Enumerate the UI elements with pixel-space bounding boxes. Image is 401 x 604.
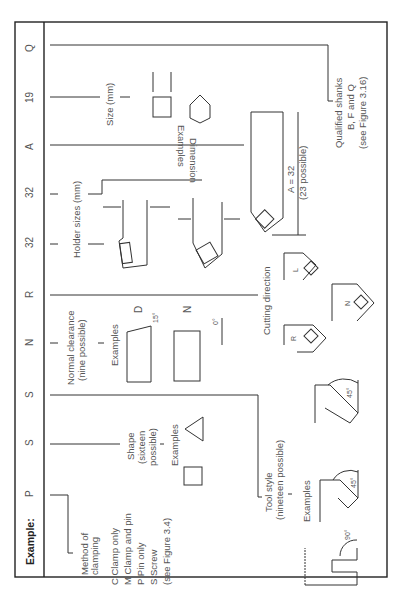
tool-angle-45a: 45°: [350, 477, 357, 488]
tool-90-icon: [305, 548, 357, 585]
shape-section: Shape (sixteen possible) Examples: [125, 417, 203, 485]
cutting-direction-section: Cutting direction R N L: [261, 253, 374, 352]
clamping-option-c: C Clamp only: [109, 528, 120, 585]
clamping-section: Method of clamping C Clamp only M Clamp …: [79, 513, 172, 585]
clamping-option-p: P Pin only: [135, 542, 146, 585]
clearance-title-1: Normal clearance: [65, 311, 76, 385]
clearance-examples-label: Examples: [109, 324, 120, 366]
qualified-section: Qualified shanks B, F and Q (see Figure …: [333, 77, 368, 149]
clamping-option-m: M Clamp and pin: [122, 513, 133, 585]
holder-b-icon: [193, 198, 222, 268]
tool-style-title-2: (nineteen possible): [274, 440, 285, 520]
clearance-d-label: D: [133, 306, 144, 313]
example-label: Example:: [24, 518, 36, 565]
clamping-reference: (see Figure 3.4): [161, 518, 172, 585]
tool-length-icon: [251, 112, 283, 232]
clearance-n-icon: [174, 331, 200, 381]
dimension-section: Size (mm) Examples Dimension: [104, 72, 210, 183]
cutting-l-label: L: [292, 268, 299, 272]
shape-title-3: possible): [147, 428, 158, 466]
clearance-d-icon: [127, 326, 151, 382]
code-size: 19: [24, 91, 35, 103]
clamping-option-s: S Screw: [148, 549, 159, 585]
code-tool-style: S: [24, 391, 35, 398]
tool-style-examples-label: Examples: [301, 480, 312, 522]
size-label: Size (mm): [104, 83, 115, 126]
qualified-line-3: (see Figure 3.16): [357, 77, 368, 149]
code-clearance: N: [24, 339, 35, 346]
clearance-section: Normal clearance (nine possible) Example…: [65, 306, 222, 385]
code-direction: R: [24, 291, 35, 298]
hexagon-dimension-icon: [190, 95, 210, 123]
dimension-title-2: Examples: [176, 125, 187, 167]
holder-title: Holder sizes (mm): [71, 181, 82, 258]
outer-frame: [15, 22, 387, 577]
qualified-line-2: B, F and Q: [345, 84, 356, 130]
clearance-title-2: (nine possible): [76, 319, 87, 381]
holder-a-icon: [119, 200, 147, 268]
angle-arc-90: [340, 540, 357, 556]
clearance-d-angle: 15°: [152, 312, 159, 323]
tool-style-title-1: Tool style: [263, 472, 274, 512]
square-insert-icon: [184, 467, 202, 485]
clearance-n-angle: 0°: [212, 318, 219, 325]
clamping-title-2: clamping: [89, 537, 100, 575]
leader-lines: [50, 45, 333, 553]
cutting-n-label: N: [344, 301, 351, 306]
shape-title-1: Shape: [125, 433, 136, 460]
square-dimension-icon: [153, 97, 171, 117]
code-shape: S: [24, 439, 35, 446]
cutting-r-label: R: [290, 336, 297, 341]
clearance-n-label: N: [182, 306, 193, 313]
cutting-l-icon: [284, 253, 316, 280]
shape-examples-label: Examples: [169, 424, 180, 466]
triangle-insert-icon: [185, 417, 203, 441]
tool-angle-90: 90°: [344, 529, 351, 540]
cutting-direction-title: Cutting direction: [261, 266, 272, 335]
dimension-title-1: Dimension: [188, 138, 199, 183]
code-height: 32: [24, 236, 35, 248]
qualified-line-1: Qualified shanks: [333, 78, 344, 148]
header-column: Example: P S S N R 32 32 A 19 Q: [24, 44, 36, 565]
tool-style-section: Tool style (nineteen possible) Examples …: [263, 379, 358, 585]
length-note: (23 possible): [297, 146, 308, 200]
tool-angle-45b: 45°: [346, 387, 353, 398]
code-qualified: Q: [24, 44, 35, 52]
code-length: A: [24, 143, 35, 150]
length-value: A = 32: [285, 166, 296, 193]
tool-holder-code-diagram: Example: P S S N R 32 32 A 19 Q: [0, 0, 401, 604]
shape-title-2: (sixteen: [136, 431, 147, 464]
code-width: 32: [24, 186, 35, 198]
length-section: A = 32 (23 possible): [251, 112, 308, 235]
code-clamping: P: [24, 490, 35, 497]
